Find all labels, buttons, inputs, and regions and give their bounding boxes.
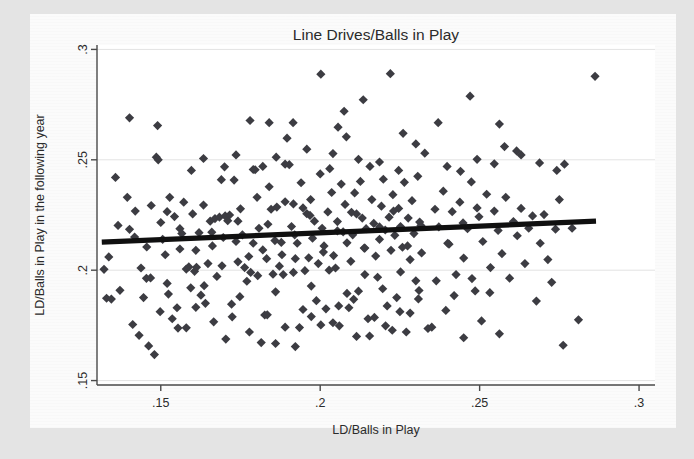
- scatter-chart: .15.2.25.3 .15.2.25.3 Line Drives/Balls …: [0, 0, 694, 459]
- plot-area-background: [97, 45, 655, 385]
- x-axis-ticks: .15.2.25.3: [152, 385, 644, 410]
- y-axis-ticks: .15.2.25.3: [76, 44, 97, 389]
- y-tick-label: .3: [76, 44, 90, 54]
- x-tick-label: .15: [152, 396, 169, 410]
- y-tick-label: .15: [76, 372, 90, 389]
- y-axis-title: LD/Balls in Play in the following year: [33, 114, 47, 316]
- x-tick-label: .3: [634, 396, 644, 410]
- y-tick-label: .25: [76, 151, 90, 168]
- x-tick-label: .25: [471, 396, 488, 410]
- x-axis-title: LD/Balls in Play: [332, 423, 420, 437]
- x-tick-label: .2: [315, 396, 325, 410]
- chart-canvas: .15.2.25.3 .15.2.25.3 Line Drives/Balls …: [0, 0, 694, 459]
- y-tick-label: .2: [76, 265, 90, 275]
- chart-title: Line Drives/Balls in Play: [293, 26, 460, 43]
